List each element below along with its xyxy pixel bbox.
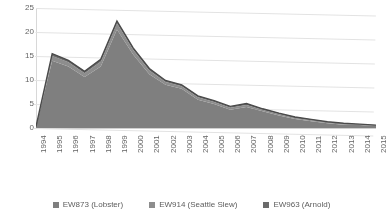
- legend-swatch-icon: [53, 202, 59, 208]
- x-axis-tick-label: 2013: [348, 135, 356, 153]
- x-axis-tick-label: 2011: [315, 136, 323, 153]
- x-axis-tick-label: 2010: [299, 135, 307, 153]
- x-axis-tick-label: 2003: [186, 135, 194, 153]
- y-axis-tick-label: 25: [0, 4, 34, 12]
- x-axis-tick-label: 2014: [364, 135, 372, 153]
- area-series: [36, 30, 376, 128]
- y-axis-tick-label: 20: [0, 28, 34, 36]
- plot-area: [36, 8, 376, 128]
- y-axis-tick-labels: 0510152025: [0, 0, 34, 136]
- x-axis-tick-label: 1994: [40, 135, 48, 153]
- legend-item[interactable]: EW914 (Seattle Slew): [149, 200, 237, 209]
- x-axis-tick-label: 1996: [72, 135, 80, 153]
- x-axis-tick-label: 2009: [283, 135, 291, 153]
- x-axis-tick-label: 2015: [380, 135, 388, 153]
- legend-swatch-icon: [263, 202, 269, 208]
- legend-item-label: EW873 (Lobster): [63, 200, 123, 209]
- legend-item[interactable]: EW873 (Lobster): [53, 200, 123, 209]
- y-axis-tick-label: 15: [0, 52, 34, 60]
- stacked-area-series: [36, 8, 376, 128]
- x-axis-tick-label: 2005: [218, 135, 226, 153]
- x-axis-tick-label: 2001: [153, 135, 161, 153]
- y-axis-tick-label: 10: [0, 76, 34, 84]
- y-axis-tick-label: 0: [0, 124, 34, 132]
- legend-item[interactable]: EW963 (Arnold): [263, 200, 330, 209]
- x-axis-tick-label: 1997: [89, 135, 97, 153]
- legend-item-label: EW963 (Arnold): [273, 200, 330, 209]
- x-axis-tick-labels: 1994199519961997199819992000200120022003…: [36, 129, 376, 179]
- x-axis-tick-label: 2008: [267, 135, 275, 153]
- chart-legend: EW873 (Lobster)EW914 (Seattle Slew)EW963…: [0, 200, 383, 209]
- x-axis-tick-label: 2000: [137, 135, 145, 153]
- x-axis-tick-label: 1999: [121, 135, 129, 153]
- legend-item-label: EW914 (Seattle Slew): [159, 200, 237, 209]
- x-axis-tick-label: 2007: [250, 135, 258, 153]
- x-axis-tick-label: 2006: [234, 135, 242, 153]
- x-axis-tick-label: 1998: [105, 135, 113, 153]
- x-axis-tick-label: 2002: [170, 135, 178, 153]
- x-axis-tick-label: 2004: [202, 135, 210, 153]
- x-axis-tick-label: 2012: [331, 135, 339, 153]
- x-axis-tick-label: 1995: [56, 135, 64, 153]
- y-axis-tick-label: 5: [0, 100, 34, 108]
- legend-swatch-icon: [149, 202, 155, 208]
